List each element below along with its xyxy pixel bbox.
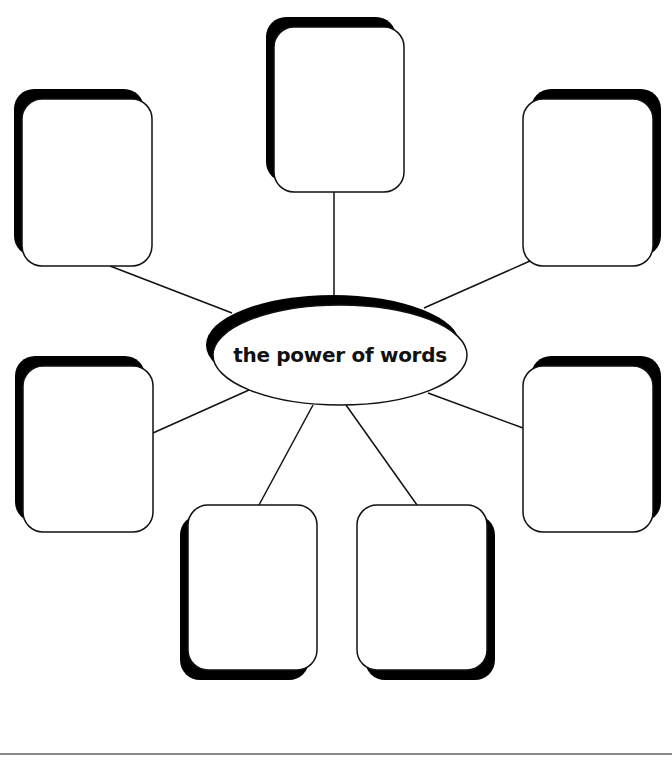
connector-middle-left: [153, 390, 249, 433]
box-top[interactable]: [274, 27, 404, 192]
connector-bottom-left: [259, 405, 313, 505]
box-middle-left[interactable]: [23, 366, 153, 532]
connector-bottom-right: [346, 405, 417, 505]
box-top-left[interactable]: [22, 99, 152, 266]
box-bottom-left[interactable]: [188, 505, 317, 670]
center-topic-label: the power of words: [213, 336, 467, 374]
connector-top-right: [424, 261, 530, 308]
box-middle-right[interactable]: [523, 366, 653, 532]
box-top-right[interactable]: [523, 99, 653, 266]
connector-middle-right: [428, 393, 523, 428]
concept-web-diagram: [0, 0, 672, 760]
box-bottom-right[interactable]: [357, 505, 487, 670]
connector-top-left: [110, 266, 232, 313]
